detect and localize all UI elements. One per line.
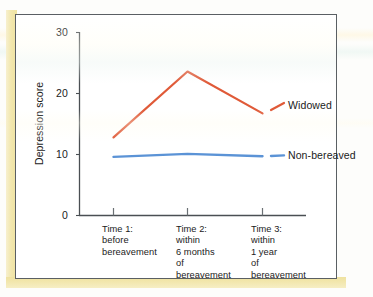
y-tick-label-10: 10	[42, 148, 68, 160]
x-category-label-time-2: Time 2: within 6 months of bereavement	[176, 224, 252, 281]
scanned-page: 30 20 10 0 Depression score Time 1: befo…	[0, 0, 373, 297]
series-label-widowed: Widowed	[288, 99, 332, 111]
x-category-label-time-3: Time 3: within 1 year of bereavement	[251, 224, 331, 281]
y-tick-label-30: 30	[42, 26, 68, 38]
series-label-non-bereaved: Non-bereaved	[288, 149, 356, 161]
y-axis-title: Depression score	[33, 82, 45, 165]
legend-swatch-widowed	[271, 103, 284, 110]
series-line-widowed	[114, 72, 263, 138]
chart-figure-frame: 30 20 10 0 Depression score Time 1: befo…	[15, 14, 337, 279]
x-category-label-time-1: Time 1: before bereavement	[102, 224, 178, 258]
legend-swatch-non-bereaved	[271, 155, 284, 156]
series-line-non-bereaved	[114, 154, 263, 157]
y-tick-label-20: 20	[42, 87, 68, 99]
y-tick-label-0: 0	[42, 209, 68, 221]
